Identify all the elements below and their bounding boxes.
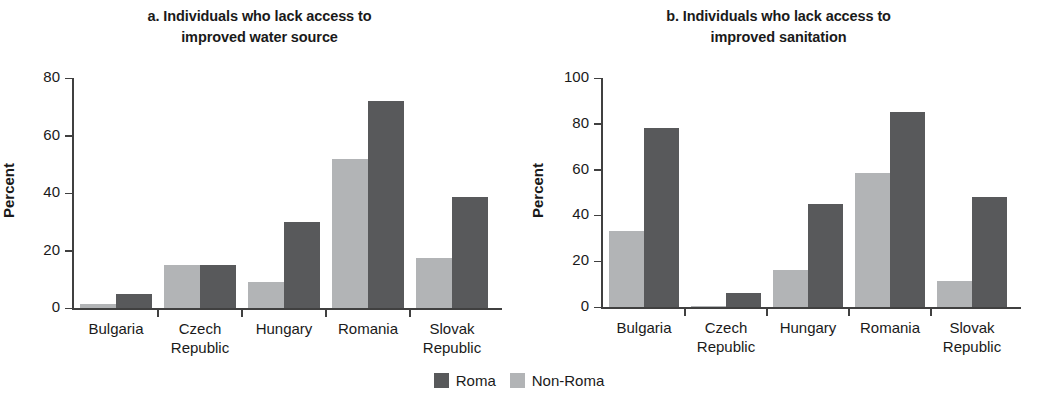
x-axis-category-label-line2: Republic <box>171 339 229 356</box>
y-axis-tick-label: 0 <box>545 297 589 314</box>
bar-roma <box>116 294 152 308</box>
y-axis-line <box>601 78 603 308</box>
y-axis-tick-label: 60 <box>16 126 60 143</box>
legend-label: Non-Roma <box>532 372 605 389</box>
x-axis-tick <box>848 308 850 316</box>
panel-a: a. Individuals who lack access to improv… <box>0 0 519 368</box>
x-axis-line <box>72 308 502 310</box>
x-axis-category-label-line1: Slovak <box>429 320 474 337</box>
bar-non-roma <box>248 282 284 308</box>
bar-non-roma <box>164 265 200 308</box>
y-axis-tick-label: 20 <box>16 241 60 258</box>
bar-roma <box>644 128 679 307</box>
bar-non-roma <box>773 270 808 307</box>
x-axis-tick <box>684 308 686 316</box>
x-axis-tick <box>766 308 768 316</box>
bar-roma <box>284 222 320 308</box>
x-axis-category-label-line1: Slovak <box>949 319 994 336</box>
x-axis-category-label-line2: Republic <box>943 338 1001 355</box>
y-axis-tick-label: 0 <box>16 298 60 315</box>
x-axis-category-label-line1: Hungary <box>780 319 837 336</box>
y-axis-tick <box>594 215 602 217</box>
chart-legend: RomaNon-Roma <box>0 372 1038 389</box>
bar-roma <box>972 197 1007 307</box>
y-axis-tick-label: 40 <box>16 183 60 200</box>
legend-item[interactable]: Non-Roma <box>510 372 605 389</box>
panels-container: a. Individuals who lack access to improv… <box>0 0 1038 368</box>
panel-b-plot-area: 020406080100PercentBulgariaCzechRepublic… <box>519 0 1038 368</box>
y-axis-tick-label: 100 <box>545 68 589 85</box>
y-axis-tick <box>594 307 602 309</box>
y-axis-tick <box>65 250 73 252</box>
legend-label: Roma <box>456 372 496 389</box>
x-axis-tick <box>409 309 411 317</box>
x-axis-tick <box>157 309 159 317</box>
y-axis-tick <box>65 193 73 195</box>
x-axis-tick <box>325 309 327 317</box>
panel-b: b. Individuals who lack access to improv… <box>519 0 1038 368</box>
x-axis-category-label: SlovakRepublic <box>396 320 508 358</box>
bar-non-roma <box>609 231 644 307</box>
bar-roma <box>808 204 843 307</box>
bar-roma <box>200 265 236 308</box>
x-axis-category-label-line1: Hungary <box>256 320 313 337</box>
y-axis-tick <box>594 261 602 263</box>
x-axis-category-label-line1: Czech <box>179 320 222 337</box>
y-axis-tick-label: 80 <box>16 68 60 85</box>
y-axis-tick <box>594 169 602 171</box>
x-axis-tick <box>241 309 243 317</box>
y-axis-tick-label: 20 <box>545 251 589 268</box>
bar-roma <box>452 197 488 308</box>
bar-non-roma <box>416 258 452 308</box>
figure-root: a. Individuals who lack access to improv… <box>0 0 1038 400</box>
y-axis-tick <box>65 308 73 310</box>
bar-non-roma <box>855 173 890 307</box>
bar-non-roma <box>691 306 726 308</box>
y-axis-tick <box>65 135 73 137</box>
y-axis-label: Percent <box>0 143 17 239</box>
y-axis-tick-label: 40 <box>545 205 589 222</box>
x-axis-category-label-line1: Bulgaria <box>616 319 671 336</box>
x-axis-tick <box>930 308 932 316</box>
y-axis-tick-label: 60 <box>545 160 589 177</box>
x-axis-line <box>601 307 1021 309</box>
legend-swatch-icon <box>434 373 449 388</box>
panel-a-plot-area: 020406080PercentBulgariaCzechRepublicHun… <box>0 0 519 368</box>
y-axis-tick <box>65 78 73 80</box>
x-axis-category-label-line2: Republic <box>697 338 755 355</box>
y-axis-tick-label: 80 <box>545 114 589 131</box>
x-axis-category-label-line2: Republic <box>423 339 481 356</box>
bar-roma <box>890 112 925 307</box>
x-axis-category-label: SlovakRepublic <box>917 319 1027 357</box>
bar-non-roma <box>80 304 116 308</box>
bar-non-roma <box>937 281 972 307</box>
x-axis-category-label-line1: Czech <box>705 319 748 336</box>
y-axis-tick <box>594 78 602 80</box>
y-axis-label: Percent <box>529 142 546 238</box>
legend-item[interactable]: Roma <box>434 372 496 389</box>
legend-swatch-icon <box>510 373 525 388</box>
y-axis-tick <box>594 123 602 125</box>
x-axis-category-label-line1: Romania <box>338 320 398 337</box>
bar-non-roma <box>332 159 368 309</box>
bar-roma <box>726 293 761 307</box>
x-axis-category-label-line1: Romania <box>860 319 920 336</box>
x-axis-category-label-line1: Bulgaria <box>88 320 143 337</box>
bar-roma <box>368 101 404 308</box>
